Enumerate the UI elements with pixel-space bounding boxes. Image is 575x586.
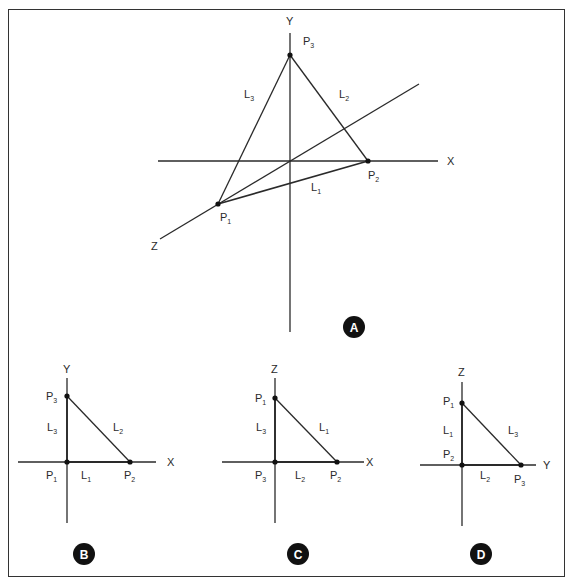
panel-a-label-l2: L2 — [339, 88, 349, 102]
panel-b-point-p1 — [64, 459, 69, 464]
panel-a-label-l1: L1 — [311, 181, 321, 195]
panel-a-axis-label-y: Y — [286, 15, 294, 27]
panel-b-point-p2 — [127, 459, 132, 464]
panel-d-point-p3 — [518, 462, 523, 467]
panel-d-point-p1 — [459, 400, 464, 405]
panel-c-point-p1 — [272, 395, 277, 400]
panel-b-label-l2: L2 — [113, 421, 123, 435]
panel-d-label-l2: L2 — [480, 469, 490, 483]
panel-a-point-p2 — [365, 158, 370, 163]
panel-d-label-p3: P3 — [514, 473, 525, 487]
panel-c-label-p3: P3 — [255, 469, 266, 483]
badge-b-label: B — [80, 548, 89, 562]
panel-b-point-p3 — [64, 393, 69, 398]
panel-a-label-p3: P3 — [303, 35, 314, 49]
badge-c-label: C — [294, 548, 303, 562]
panel-d-point-p2 — [459, 462, 464, 467]
panel-a-label-p1: P1 — [220, 211, 231, 225]
panel-d — [420, 382, 536, 526]
panel-c-label-l1: L1 — [319, 421, 329, 435]
badge-a: A — [343, 316, 365, 338]
panel-b-axis-label-y: Y — [63, 363, 71, 375]
panel-b-label-l1: L1 — [81, 469, 91, 483]
badge-d-label: D — [477, 548, 486, 562]
panel-c-label-l2: L2 — [295, 469, 305, 483]
panel-a-point-p3 — [287, 52, 292, 57]
panel-d-label-p1: P1 — [443, 395, 454, 409]
panel-c-axis-label-x: X — [366, 456, 374, 468]
panel-a — [158, 33, 438, 332]
panel-b-axis-label-x: X — [167, 456, 175, 468]
panel-c-point-p3 — [272, 459, 277, 464]
panel-b-label-p2: P2 — [124, 469, 135, 483]
panel-b-label-p3: P3 — [46, 390, 57, 404]
panel-d-label-p2: P2 — [443, 448, 454, 462]
badge-a-label: A — [350, 321, 359, 335]
panel-c-label-l3: L3 — [256, 421, 266, 435]
panel-a-line-l1 — [218, 161, 368, 204]
panel-a-axis-label-x: X — [447, 155, 455, 167]
panel-c-axis-label-z: Z — [271, 363, 278, 375]
panel-a-label-l3: L3 — [244, 88, 254, 102]
panel-d-label-l3: L3 — [508, 424, 518, 438]
panel-c-point-p2 — [334, 459, 339, 464]
panel-b-label-p1: P1 — [46, 469, 57, 483]
panel-a-line-l3 — [218, 55, 290, 204]
panel-b — [18, 378, 156, 523]
panel-a-line-l2 — [290, 55, 368, 161]
diagram-canvas: Y X Z P3 P2 P1 L3 L2 L1 Y X P3 P1 P2 L3 … — [0, 0, 575, 586]
badge-c: C — [287, 543, 309, 565]
panel-d-axis-label-z: Z — [458, 366, 465, 378]
panel-a-label-p2: P2 — [368, 169, 379, 183]
panel-c-label-p1: P1 — [255, 392, 266, 406]
panel-d-label-l1: L1 — [443, 424, 453, 438]
panel-d-axis-label-y: Y — [543, 459, 551, 471]
panel-a-point-p1 — [215, 201, 220, 206]
panel-a-axis-label-z: Z — [151, 240, 158, 252]
panel-c-label-p2: P2 — [330, 469, 341, 483]
panel-b-label-l3: L3 — [47, 421, 57, 435]
panel-c — [222, 378, 364, 523]
badge-d: D — [470, 543, 492, 565]
badge-b: B — [73, 543, 95, 565]
